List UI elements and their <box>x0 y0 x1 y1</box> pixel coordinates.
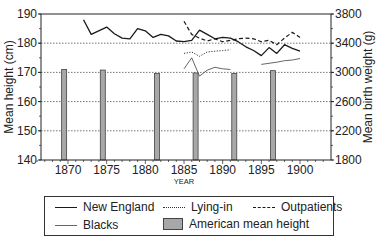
left-tick-label: 160 <box>17 95 37 109</box>
right-axis-title: Mean birth weight (g) <box>361 31 375 144</box>
legend-label: New England <box>83 200 154 214</box>
legend-lying-in: Lying-in <box>163 200 233 214</box>
right-tick-label: 3000 <box>335 65 362 79</box>
bar <box>100 70 105 160</box>
left-tick-label: 140 <box>17 153 37 167</box>
american-mean-height-bars <box>62 69 276 160</box>
legend-outpatients: Outpatients <box>253 200 342 214</box>
solid-line-icon <box>55 207 77 208</box>
bar <box>232 74 237 160</box>
dotted-line-icon <box>163 207 185 208</box>
x-tick-label: 1875 <box>93 163 120 177</box>
right-tick-label: 1800 <box>335 153 362 167</box>
gridlines <box>41 43 331 131</box>
bar <box>270 71 275 160</box>
left-tick-label: 180 <box>17 36 37 50</box>
axes: 1401501601701801901800220026003000340038… <box>2 7 375 186</box>
bar <box>154 74 159 160</box>
right-tick-label: 3800 <box>335 7 362 21</box>
right-tick-label: 2200 <box>335 124 362 138</box>
bar <box>193 73 198 160</box>
left-tick-label: 190 <box>17 7 37 21</box>
legend-label: Outpatients <box>281 200 342 214</box>
x-tick-label: 1885 <box>171 163 198 177</box>
legend: New England Lying-in Outpatients Blacks … <box>44 196 334 236</box>
legend-label: Blacks <box>83 218 118 232</box>
x-tick-label: 1880 <box>132 163 159 177</box>
left-tick-label: 170 <box>17 65 37 79</box>
x-tick-label: 1870 <box>55 163 82 177</box>
legend-label: American mean height <box>189 217 309 231</box>
x-tick-label: 1890 <box>209 163 236 177</box>
bar-swatch-icon <box>163 218 183 230</box>
lying-in-line <box>184 50 230 57</box>
legend-blacks: Blacks <box>55 218 118 232</box>
outpatients-line <box>184 21 300 44</box>
legend-new-england: New England <box>55 200 154 214</box>
bar <box>62 69 67 160</box>
dashed-line-icon <box>253 207 275 208</box>
light-line-icon <box>55 225 77 226</box>
left-tick-label: 150 <box>17 124 37 138</box>
series-lines <box>84 20 301 76</box>
legend-label: Lying-in <box>191 200 233 214</box>
blacks-line <box>184 58 230 76</box>
right-tick-label: 2600 <box>335 95 362 109</box>
right-tick-label: 3400 <box>335 36 362 50</box>
x-tick-label: 1900 <box>287 163 314 177</box>
x-tick-label: 1895 <box>248 163 275 177</box>
left-axis-title: Mean height (cm) <box>2 40 16 133</box>
legend-american-mean-height: American mean height <box>163 217 309 231</box>
x-axis-title: YEAR <box>174 177 195 186</box>
blacks-line <box>261 59 300 65</box>
new-england-line <box>84 20 301 56</box>
